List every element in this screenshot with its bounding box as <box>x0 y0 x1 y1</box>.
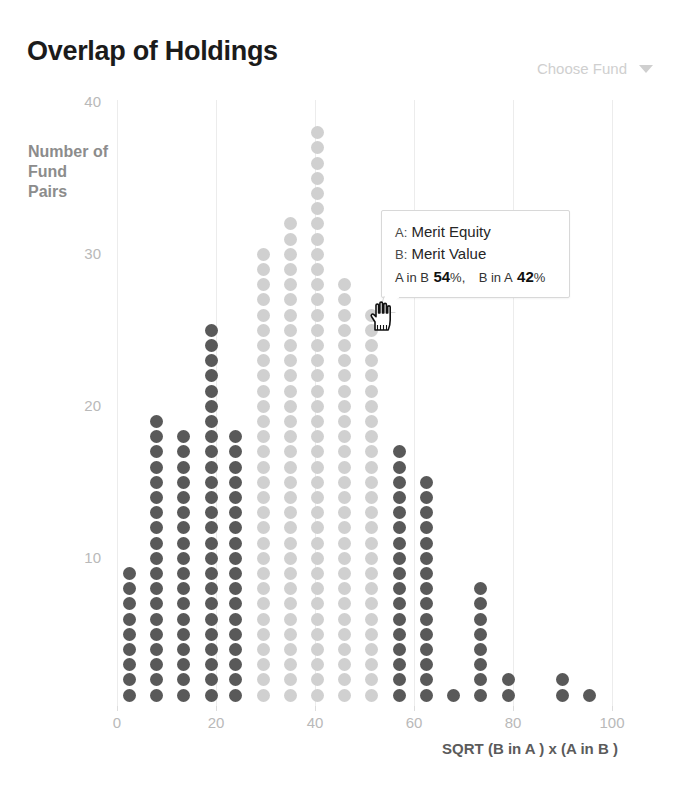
data-dot[interactable] <box>338 309 351 322</box>
data-dot[interactable] <box>284 217 297 230</box>
data-dot[interactable] <box>177 582 190 595</box>
data-dot[interactable] <box>205 673 218 686</box>
data-dot[interactable] <box>257 567 270 580</box>
data-dot[interactable] <box>365 400 378 413</box>
data-dot[interactable] <box>311 233 324 246</box>
data-dot[interactable] <box>420 582 433 595</box>
data-dot[interactable] <box>284 400 297 413</box>
data-dot[interactable] <box>365 354 378 367</box>
data-dot[interactable] <box>284 521 297 534</box>
data-dot[interactable] <box>150 582 163 595</box>
data-dot[interactable] <box>284 461 297 474</box>
data-dot[interactable] <box>150 506 163 519</box>
data-dot[interactable] <box>284 673 297 686</box>
data-dot[interactable] <box>284 552 297 565</box>
data-dot[interactable] <box>311 461 324 474</box>
data-dot[interactable] <box>311 506 324 519</box>
data-dot[interactable] <box>257 385 270 398</box>
data-dot[interactable] <box>474 582 487 595</box>
data-dot[interactable] <box>420 521 433 534</box>
data-dot[interactable] <box>474 673 487 686</box>
data-dot[interactable] <box>311 415 324 428</box>
data-dot[interactable] <box>284 689 297 702</box>
data-dot[interactable] <box>177 658 190 671</box>
data-dot[interactable] <box>393 461 406 474</box>
data-dot[interactable] <box>502 673 515 686</box>
data-dot[interactable] <box>583 689 596 702</box>
data-dot[interactable] <box>556 689 569 702</box>
data-dot[interactable] <box>338 445 351 458</box>
data-dot[interactable] <box>257 415 270 428</box>
data-dot[interactable] <box>257 400 270 413</box>
data-dot[interactable] <box>393 689 406 702</box>
data-dot[interactable] <box>393 521 406 534</box>
data-dot[interactable] <box>338 521 351 534</box>
data-dot[interactable] <box>284 506 297 519</box>
data-dot[interactable] <box>502 689 515 702</box>
data-dot[interactable] <box>365 643 378 656</box>
data-dot[interactable] <box>365 673 378 686</box>
data-dot[interactable] <box>205 643 218 656</box>
data-dot[interactable] <box>150 445 163 458</box>
data-dot[interactable] <box>229 613 242 626</box>
data-dot[interactable] <box>365 628 378 641</box>
data-dot[interactable] <box>311 567 324 580</box>
data-dot[interactable] <box>229 461 242 474</box>
data-dot[interactable] <box>257 430 270 443</box>
data-dot[interactable] <box>338 339 351 352</box>
data-dot[interactable] <box>338 552 351 565</box>
data-dot[interactable] <box>311 582 324 595</box>
data-dot[interactable] <box>311 689 324 702</box>
data-dot[interactable] <box>177 476 190 489</box>
data-dot[interactable] <box>257 673 270 686</box>
data-dot[interactable] <box>338 582 351 595</box>
data-dot[interactable] <box>420 658 433 671</box>
data-dot[interactable] <box>311 157 324 170</box>
data-dot[interactable] <box>150 658 163 671</box>
data-dot[interactable] <box>229 445 242 458</box>
data-dot[interactable] <box>150 643 163 656</box>
data-dot[interactable] <box>474 658 487 671</box>
data-dot[interactable] <box>311 278 324 291</box>
data-dot[interactable] <box>205 445 218 458</box>
data-dot[interactable] <box>257 537 270 550</box>
data-dot[interactable] <box>257 248 270 261</box>
data-dot[interactable] <box>311 521 324 534</box>
data-dot[interactable] <box>338 354 351 367</box>
data-dot[interactable] <box>420 613 433 626</box>
data-dot[interactable] <box>338 369 351 382</box>
data-dot[interactable] <box>311 658 324 671</box>
data-dot[interactable] <box>123 597 136 610</box>
data-dot[interactable] <box>177 628 190 641</box>
data-dot[interactable] <box>338 324 351 337</box>
data-dot[interactable] <box>150 689 163 702</box>
data-dot[interactable] <box>177 597 190 610</box>
data-dot[interactable] <box>365 597 378 610</box>
data-dot[interactable] <box>365 567 378 580</box>
data-dot[interactable] <box>311 293 324 306</box>
data-dot[interactable] <box>311 217 324 230</box>
data-dot[interactable] <box>284 628 297 641</box>
data-dot[interactable] <box>229 689 242 702</box>
data-dot[interactable] <box>205 461 218 474</box>
data-dot[interactable] <box>311 263 324 276</box>
data-dot[interactable] <box>177 506 190 519</box>
data-dot[interactable] <box>338 491 351 504</box>
data-dot[interactable] <box>311 445 324 458</box>
data-dot[interactable] <box>474 628 487 641</box>
data-dot[interactable] <box>257 339 270 352</box>
data-dot[interactable] <box>393 552 406 565</box>
data-dot[interactable] <box>338 278 351 291</box>
data-dot[interactable] <box>284 491 297 504</box>
data-dot[interactable] <box>205 628 218 641</box>
data-dot[interactable] <box>338 597 351 610</box>
data-dot[interactable] <box>311 385 324 398</box>
data-dot[interactable] <box>393 658 406 671</box>
data-dot[interactable] <box>311 126 324 139</box>
data-dot[interactable] <box>311 202 324 215</box>
data-dot[interactable] <box>257 369 270 382</box>
data-dot[interactable] <box>177 689 190 702</box>
data-dot[interactable] <box>229 521 242 534</box>
data-dot[interactable] <box>257 293 270 306</box>
data-dot[interactable] <box>229 658 242 671</box>
